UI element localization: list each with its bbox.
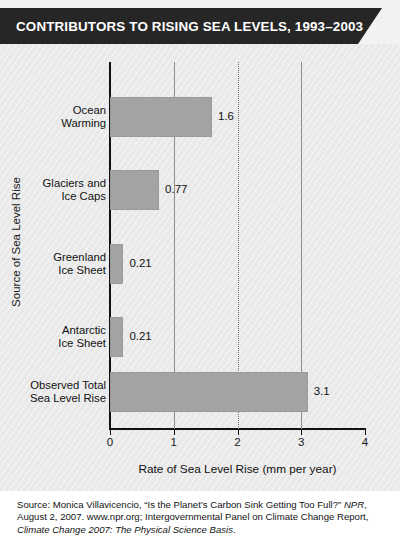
x-tick-label-4: 4 xyxy=(362,436,368,448)
source-italic-npr: NPR xyxy=(344,499,364,510)
category-label: Greenland Ice Sheet xyxy=(53,251,106,277)
bar-value-label: 3.1 xyxy=(314,385,330,397)
bar xyxy=(110,317,123,357)
bar-value-label: 0.77 xyxy=(165,183,187,195)
source-italic-report: Climate Change 2007: The Physical Scienc… xyxy=(17,524,233,535)
bar-value-label: 0.21 xyxy=(129,330,151,342)
y-axis-label-text: Source of Sea Level Rise xyxy=(10,177,22,307)
x-tick-4 xyxy=(365,429,366,435)
bar xyxy=(110,372,308,412)
chart-area: Source of Sea Level Rise Ocean WarmingGl… xyxy=(0,44,400,491)
x-tick-label-2: 2 xyxy=(234,436,240,448)
source-text-1: Source: Monica Villavicencio, “Is the Pl… xyxy=(17,499,344,510)
chart-page: CONTRIBUTORS TO RISING SEA LEVELS, 1993–… xyxy=(0,0,400,546)
x-tick-0 xyxy=(110,429,111,435)
bar xyxy=(110,244,123,284)
x-tick-2 xyxy=(238,429,239,435)
category-label: Observed Total Sea Level Rise xyxy=(30,379,106,405)
source-text-3: . xyxy=(233,524,236,535)
source-note: Source: Monica Villavicencio, “Is the Pl… xyxy=(17,499,387,536)
x-tick-label-1: 1 xyxy=(171,436,177,448)
x-tick-3 xyxy=(301,429,302,435)
x-axis-label: Rate of Sea Level Rise (mm per year) xyxy=(110,462,365,476)
category-label: Glaciers and Ice Caps xyxy=(43,177,106,203)
category-labels: Ocean WarmingGlaciers and Ice CapsGreenl… xyxy=(24,62,106,429)
footer: Source: Monica Villavicencio, “Is the Pl… xyxy=(0,491,400,546)
bar-value-label: 1.6 xyxy=(218,110,234,122)
header-banner: CONTRIBUTORS TO RISING SEA LEVELS, 1993–… xyxy=(0,8,382,44)
x-tick-1 xyxy=(174,429,175,435)
page-title: CONTRIBUTORS TO RISING SEA LEVELS, 1993–… xyxy=(0,19,363,34)
category-label: Antarctic Ice Sheet xyxy=(58,324,106,350)
bar-value-label: 0.21 xyxy=(129,257,151,269)
x-tick-label-3: 3 xyxy=(298,436,304,448)
category-label: Ocean Warming xyxy=(61,104,106,130)
x-tick-label-0: 0 xyxy=(107,436,113,448)
bar xyxy=(110,97,212,137)
bar xyxy=(110,170,159,210)
plot-box: 01234 1.60.770.210.213.1 xyxy=(110,62,365,429)
